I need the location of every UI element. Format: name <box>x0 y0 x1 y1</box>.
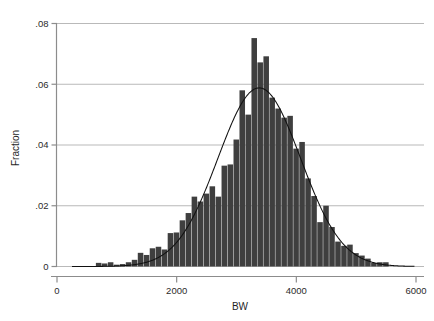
x-axis-ticks: 0200040006000 <box>54 277 426 296</box>
histogram-bar <box>293 149 299 267</box>
histogram-bar <box>251 38 257 266</box>
histogram-bar <box>222 166 228 267</box>
histogram-bar <box>210 186 216 266</box>
x-tick-label: 2000 <box>166 285 187 296</box>
histogram-bar <box>305 178 311 266</box>
histogram-bar <box>239 90 245 266</box>
y-tick-label: .06 <box>35 79 48 90</box>
histogram-bar <box>281 118 287 267</box>
y-tick-label: .08 <box>35 18 48 29</box>
histogram-bar <box>257 62 263 266</box>
histogram-bars <box>96 38 389 266</box>
histogram-bar <box>245 115 251 267</box>
histogram-bar <box>168 233 174 266</box>
histogram-bar <box>317 222 323 266</box>
histogram-bar <box>287 116 293 267</box>
x-tick-label: 4000 <box>286 285 307 296</box>
histogram-bar <box>150 248 156 266</box>
y-tick-label: 0 <box>43 261 48 272</box>
y-tick-label: .02 <box>35 200 48 211</box>
histogram-bar <box>263 56 269 266</box>
y-axis-title: Fraction <box>10 130 21 166</box>
histogram-bar <box>228 164 234 266</box>
histogram-bar <box>275 109 281 267</box>
histogram-bar <box>335 242 341 267</box>
histogram-bar <box>299 142 305 267</box>
histogram-bar <box>144 255 150 267</box>
x-axis-title: BW <box>232 301 249 312</box>
histogram-chart: 0.02.04.06.08 0200040006000 Fraction BW <box>0 0 434 321</box>
histogram-bar <box>234 140 240 267</box>
histogram-bar <box>216 197 222 267</box>
histogram-bar <box>269 98 275 267</box>
x-tick-label: 6000 <box>405 285 426 296</box>
histogram-bar <box>341 246 347 267</box>
histogram-bar <box>347 245 353 267</box>
histogram-bar <box>132 260 138 267</box>
y-tick-label: .04 <box>35 139 48 150</box>
histogram-bar <box>329 227 335 266</box>
chart-canvas: 0.02.04.06.08 0200040006000 Fraction BW <box>0 0 434 321</box>
histogram-bar <box>180 220 186 266</box>
histogram-bar <box>198 202 204 267</box>
x-tick-label: 0 <box>54 285 59 296</box>
y-axis-ticks: 0.02.04.06.08 <box>35 18 57 272</box>
histogram-bar <box>204 194 210 267</box>
histogram-bar <box>311 196 317 266</box>
histogram-bar <box>174 232 180 266</box>
histogram-bar <box>192 197 198 267</box>
